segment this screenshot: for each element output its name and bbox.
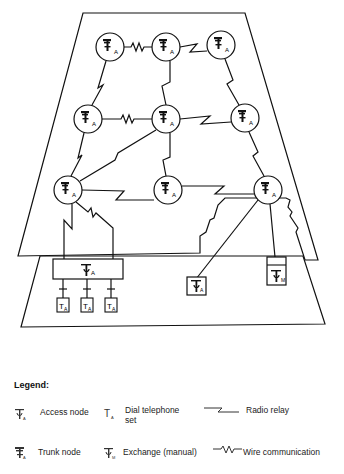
legend-label-dial-line1: Dial telephone <box>125 405 179 415</box>
svg-text:A: A <box>72 192 76 198</box>
dial-telephone: TA <box>57 298 69 312</box>
legend-label-wire-communication: Wire communication <box>243 447 320 457</box>
legend-label-exchange-manual: Exchange (manual) <box>123 447 197 457</box>
exchange-manual: M <box>267 257 286 285</box>
access-node-icon: A <box>14 407 28 421</box>
svg-text:A: A <box>272 192 276 198</box>
trunk-node: A <box>231 104 259 132</box>
trunk-node: A <box>96 33 124 61</box>
access-node-small: A <box>187 277 206 295</box>
svg-text:A: A <box>170 121 174 127</box>
legend-label-radio-relay: Radio relay <box>246 405 289 415</box>
svg-text:T: T <box>104 408 110 419</box>
svg-text:A: A <box>92 121 96 127</box>
svg-text:A: A <box>114 49 118 55</box>
svg-text:A: A <box>225 47 229 53</box>
trunk-node: A <box>152 105 180 133</box>
legend-label-dial-telephone: Dial telephone set <box>125 405 179 425</box>
legend-title: Legend: <box>14 380 49 390</box>
access-node-main: A <box>53 259 123 279</box>
dial-telephone: TA <box>105 298 117 312</box>
wire-communication-icon <box>213 445 243 455</box>
trunk-node: A <box>154 176 182 204</box>
trunk-node: A <box>207 31 235 59</box>
exchange-manual-icon: M <box>103 446 117 460</box>
svg-text:M: M <box>281 277 285 283</box>
trunk-node: A <box>254 176 282 204</box>
svg-text:A: A <box>23 455 26 460</box>
radio-relay-icon <box>204 405 240 415</box>
svg-text:A: A <box>91 270 95 276</box>
network-diagram: A A A A A A A A A A TA TA <box>0 0 344 380</box>
trunk-node: A <box>74 105 102 133</box>
svg-text:A: A <box>249 120 253 126</box>
legend-label-access-node: Access node <box>40 407 89 417</box>
svg-text:A: A <box>170 49 174 55</box>
svg-text:M: M <box>112 455 115 460</box>
trunk-node: A <box>152 33 180 61</box>
trunk-node: A <box>54 176 82 204</box>
trunk-node-icon: A <box>14 446 28 460</box>
dial-telephone-icon: TA <box>103 407 117 421</box>
svg-text:A: A <box>23 416 26 421</box>
legend-label-trunk-node: Trunk node <box>38 447 81 457</box>
svg-text:A: A <box>172 192 176 198</box>
svg-text:A: A <box>111 415 114 420</box>
legend-label-dial-line2: set <box>125 415 136 425</box>
dial-telephone: TA <box>81 298 93 312</box>
